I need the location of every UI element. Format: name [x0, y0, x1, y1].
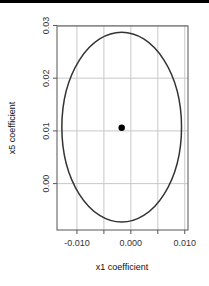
- x-tick-label: 0.000: [120, 238, 143, 248]
- confidence-ellipse-chart: -0.0100.0000.010 0.000.010.020.03 x1 coe…: [0, 0, 209, 286]
- y-tick-label: 0.03: [41, 17, 51, 35]
- x-axis: -0.0100.0000.010: [64, 230, 196, 248]
- y-tick-label: 0.00: [41, 175, 51, 193]
- y-axis-title: x5 coefficient: [7, 101, 17, 154]
- y-tick-label: 0.01: [41, 122, 51, 140]
- y-axis: 0.000.010.020.03: [41, 17, 57, 193]
- y-tick-label: 0.02: [41, 69, 51, 87]
- x-tick-label: -0.010: [64, 238, 90, 248]
- x-tick-label: 0.010: [173, 238, 196, 248]
- point-estimate-marker: [118, 125, 124, 131]
- x-axis-title: x1 coefficient: [96, 262, 149, 272]
